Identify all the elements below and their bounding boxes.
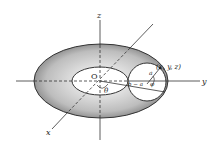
z-axis-label: z (96, 11, 102, 20)
distance-label: b − a (128, 81, 143, 87)
x-axis-label: x (46, 128, 51, 137)
torus-diagram: z y x O θ b − a a φ (x, y, z) (0, 0, 218, 147)
origin-label: O (91, 72, 98, 81)
radius-a-label: a (149, 69, 153, 76)
point-label: (x, y, z) (156, 63, 181, 71)
y-axis-label: y (201, 77, 207, 86)
